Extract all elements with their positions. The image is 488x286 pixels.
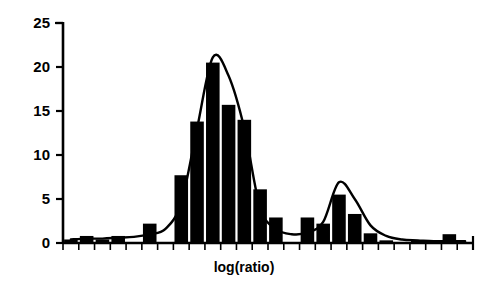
- histogram-bars: [64, 63, 456, 243]
- chart-container: 0510152025 log(ratio): [0, 0, 488, 286]
- histogram-bar: [253, 189, 267, 243]
- y-axis-tick-label: 20: [33, 58, 50, 75]
- y-axis-tick-label: 10: [33, 146, 50, 163]
- y-axis-tick-label: 25: [33, 14, 50, 31]
- histogram-bar: [332, 195, 346, 243]
- y-axis-tick-labels: 0510152025: [33, 14, 50, 251]
- histogram-bar: [379, 240, 393, 243]
- log-ratio-histogram: 0510152025 log(ratio): [0, 0, 488, 286]
- y-axis-tick-label: 0: [42, 234, 50, 251]
- x-axis-title: log(ratio): [214, 259, 275, 275]
- y-axis-tick-label: 15: [33, 102, 50, 119]
- y-axis-tick-label: 5: [42, 190, 50, 207]
- density-curve: [71, 55, 465, 242]
- histogram-bar: [222, 105, 236, 243]
- histogram-bar: [206, 63, 220, 243]
- histogram-bar: [348, 214, 362, 243]
- histogram-bar: [96, 239, 110, 243]
- histogram-bar: [190, 122, 204, 243]
- histogram-bar: [238, 120, 252, 243]
- histogram-bar: [364, 233, 378, 243]
